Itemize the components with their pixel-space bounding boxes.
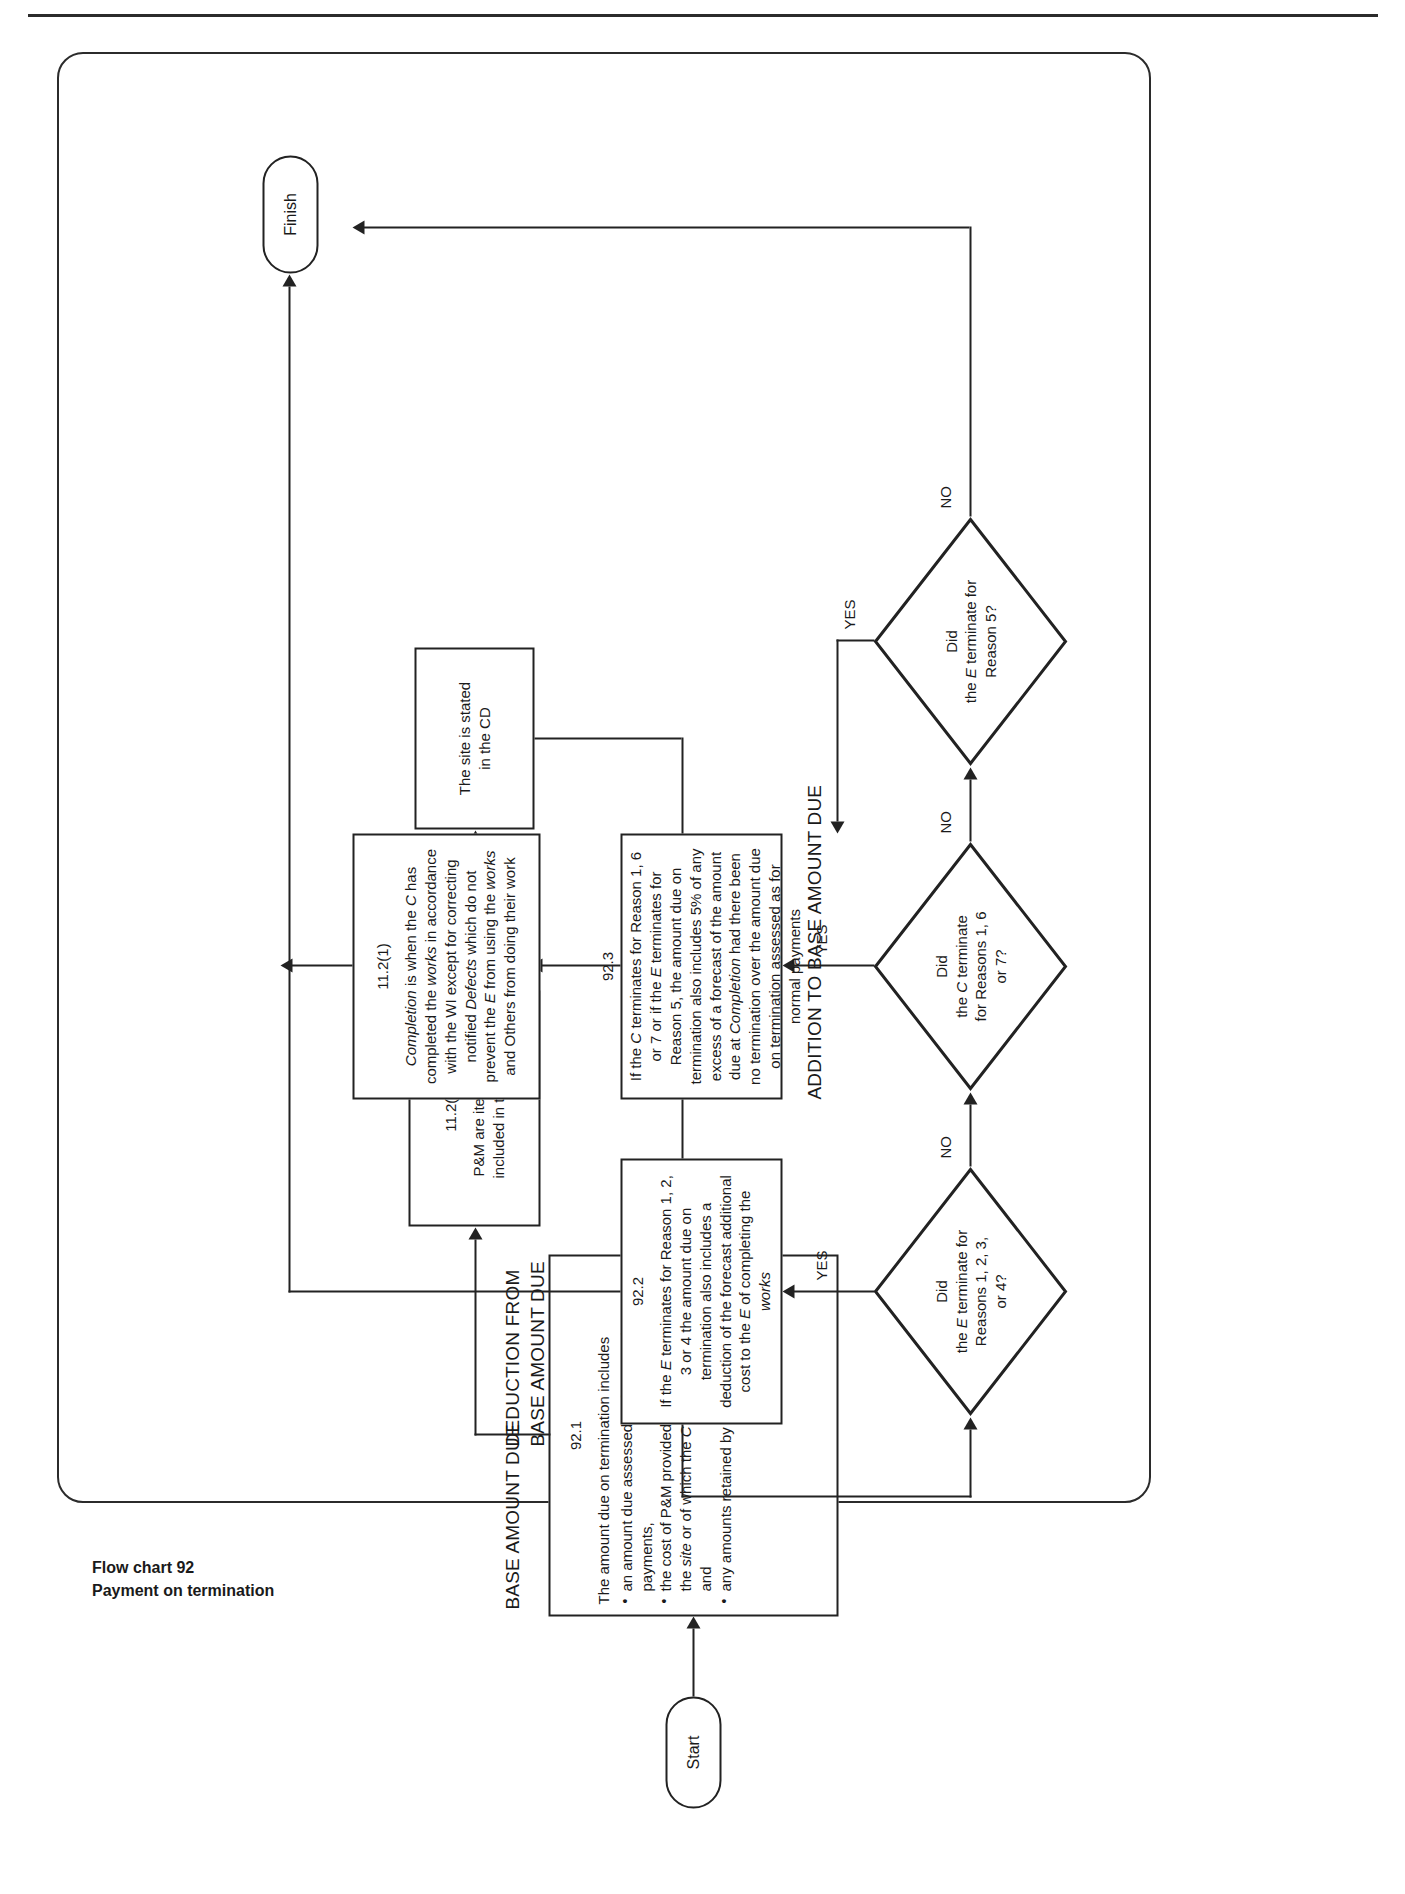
box-923-addition: 92.3 If the C terminates for Reason 1, 6… [620, 833, 782, 1099]
arrowhead-d2-no [963, 767, 977, 779]
caption-addition-to-base: ADDITION TO BASE AMOUNT DUE [802, 659, 827, 1099]
footer-line-2: Payment on termination [92, 1579, 274, 1602]
decision-3-text: Did the E terminate for Reason 5? [872, 516, 1068, 766]
decision-2-line-4: or 7? [990, 911, 1010, 1021]
arrowhead-922-to-finish [282, 274, 296, 286]
edge-label-d1-yes: YES [812, 1250, 829, 1280]
connector-d3-no-right [969, 226, 971, 516]
arrowhead-d1-yes [782, 1284, 794, 1298]
flowchart-page: Start BASE AMOUNT DUE 92.1 The amount du… [0, 0, 1405, 1894]
arrowhead-1121-up [280, 958, 292, 972]
decision-2-line-3: for Reasons 1, 6 [970, 911, 990, 1021]
box-site-line-1: The site is stated [454, 681, 474, 794]
edge-label-d2-no: NO [936, 811, 953, 834]
decision-2-line-2: the C terminate [951, 911, 971, 1021]
arrowhead-d1-no [963, 1092, 977, 1104]
decision-2-text: Did the C terminate for Reasons 1, 6 or … [872, 841, 1068, 1091]
arrowhead-921-to-1128 [468, 1227, 482, 1239]
edge-label-d3-no: NO [936, 486, 953, 509]
edge-label-d3-yes: YES [840, 599, 857, 629]
decision-1-did-e-terminate-1234: Did the E terminate for Reasons 1, 2, 3,… [872, 1166, 1068, 1416]
decision-3-did-e-terminate-5: Did the E terminate for Reason 5? [872, 516, 1068, 766]
edge-label-d1-no: NO [936, 1136, 953, 1159]
decision-3-line-1: Did [941, 579, 961, 702]
decision-2-line-1: Did [931, 911, 951, 1021]
arrowhead-start-to-921 [686, 1616, 700, 1628]
rotated-content-wrapper: Start BASE AMOUNT DUE 92.1 The amount du… [0, 0, 1405, 1894]
box-1121-number: 11.2(1) [373, 943, 390, 989]
finish-label: Finish [281, 193, 299, 236]
connector-922-to-finish [288, 286, 290, 1292]
connector-site-into-d1 [969, 1429, 971, 1497]
connector-921-to-1128 [474, 1239, 476, 1435]
decision-3-line-2: the E terminate for [960, 579, 980, 702]
decision-1-line-4: or 4? [990, 1229, 1010, 1352]
footer-line-1: Flow chart 92 [92, 1556, 274, 1579]
finish-terminator: Finish [262, 155, 318, 273]
box-921-number: 92.1 [566, 1420, 583, 1449]
start-label: Start [684, 1735, 702, 1769]
connector-d3-yes-left [836, 639, 838, 821]
connector-922-up [288, 1290, 620, 1292]
box-923-text: If the C terminates for Reason 1, 6 or 7… [625, 845, 803, 1087]
connector-d1-yes [792, 1290, 874, 1292]
decision-1-text: Did the E terminate for Reasons 1, 2, 3,… [872, 1166, 1068, 1416]
decision-1-line-3: Reasons 1, 2, 3, [970, 1229, 990, 1352]
connector-start-to-921 [692, 1628, 694, 1696]
box-1121-text: Completion is when the C has completed t… [400, 845, 519, 1087]
box-922-number: 92.2 [628, 1276, 645, 1305]
box-922-text: If the E terminates for Reason 1, 2, 3 o… [655, 1170, 774, 1412]
start-terminator: Start [665, 1696, 721, 1808]
flowchart-canvas: Start BASE AMOUNT DUE 92.1 The amount du… [0, 0, 1405, 1894]
arrowhead-d3-no-to-finish [352, 220, 364, 234]
connector-923-to-1121 [540, 964, 620, 966]
connector-d3-no-up [362, 226, 969, 228]
caption-deduction-line-1: DEDUCTION FROM [500, 1126, 525, 1446]
connector-d1-no [969, 1104, 971, 1166]
caption-deduction-line-2: BASE AMOUNT DUE [525, 1126, 550, 1446]
arrowhead-into-d1 [963, 1417, 977, 1429]
connector-site-down-to-d1 [681, 1495, 971, 1497]
connector-d2-no [969, 779, 971, 841]
connector-site-down [534, 737, 681, 739]
connector-d3-yes-up [836, 639, 874, 641]
box-site-stated-in-cd: The site is stated in the CD [414, 647, 534, 829]
decision-1-line-2: the E terminate for [951, 1229, 971, 1352]
chart-footer-title: Flow chart 92 Payment on termination [92, 1556, 274, 1602]
decision-3-line-3: Reason 5? [980, 579, 1000, 702]
connector-1121-up-to-finish-line [290, 964, 352, 966]
box-921-intro: The amount due on termination includes [593, 1266, 613, 1604]
box-1121-completion: 11.2(1) Completion is when the C has com… [352, 833, 540, 1099]
box-922-deduction: 92.2 If the E terminates for Reason 1, 2… [620, 1158, 782, 1424]
decision-2-did-c-terminate-167: Did the C terminate for Reasons 1, 6 or … [872, 841, 1068, 1091]
decision-1-line-1: Did [931, 1229, 951, 1352]
box-site-line-2: in the CD [474, 681, 494, 794]
arrowhead-d3-yes [830, 821, 844, 833]
caption-deduction-from-base: DEDUCTION FROM BASE AMOUNT DUE [500, 1126, 549, 1446]
